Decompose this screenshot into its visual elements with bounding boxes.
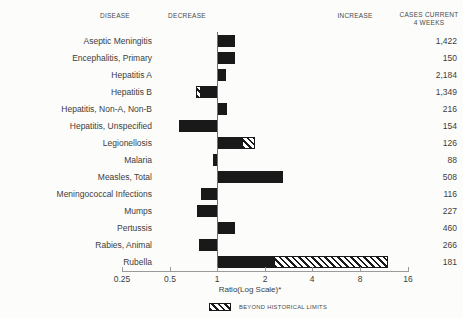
disease-label: Encephalitis, Primary (0, 50, 152, 67)
disease-label: Hepatitis, Non-A, Non-B (0, 101, 152, 118)
cases-value: 460 (413, 220, 457, 237)
cases-value: 181 (413, 254, 457, 271)
bar-beyond-historical-limits (274, 256, 388, 268)
disease-label: Meningococcal Infections (0, 186, 152, 203)
chart-row: Measles, Total508 (0, 169, 463, 186)
chart-row: Rabies, Animal266 (0, 237, 463, 254)
x-axis-tick-label: 2 (263, 274, 268, 284)
chart-row: Hepatitis, Unspecified154 (0, 118, 463, 135)
disease-label: Rabies, Animal (0, 237, 152, 254)
chart-row: Encephalitis, Primary150 (0, 50, 463, 67)
x-axis-tick (170, 267, 171, 272)
bar-increase (217, 52, 235, 64)
x-axis-tick (360, 267, 361, 272)
cases-value: 227 (413, 203, 457, 220)
disease-label: Measles, Total (0, 169, 152, 186)
cases-value: 126 (413, 135, 457, 152)
disease-label: Hepatitis A (0, 67, 152, 84)
bar-increase (217, 171, 283, 183)
column-header-cases-current: CASES CURRENT 4 WEEKS (400, 11, 459, 27)
disease-label: Hepatitis, Unspecified (0, 118, 152, 135)
disease-label: Rubella (0, 254, 152, 271)
bar-increase (217, 35, 235, 47)
bar-decrease (199, 239, 217, 251)
bar-decrease (179, 120, 218, 132)
x-axis-tick-label: 16 (403, 274, 412, 284)
bar-decrease (201, 86, 217, 98)
bar-decrease (197, 205, 218, 217)
mmwr-notifiable-diseases-chart: DISEASE DECREASE INCREASE CASES CURRENT … (0, 0, 463, 318)
x-axis-tick (217, 267, 218, 272)
disease-label: Hepatitis B (0, 84, 152, 101)
bar-decrease (201, 188, 217, 200)
disease-label: Mumps (0, 203, 152, 220)
x-axis-tick-label: 0.5 (164, 274, 176, 284)
chart-row: Rubella181 (0, 254, 463, 271)
chart-row: Meningococcal Infections116 (0, 186, 463, 203)
bar-increase (217, 222, 235, 234)
legend-label: BEYOND HISTORICAL LIMITS (239, 304, 327, 310)
chart-row: Mumps227 (0, 203, 463, 220)
cases-value: 116 (413, 186, 457, 203)
cases-value: 216 (413, 101, 457, 118)
x-axis-tick (312, 267, 313, 272)
beyond-historical-limits-hatch-swatch (209, 303, 231, 311)
disease-label: Malaria (0, 152, 152, 169)
baseline-ratio-1 (217, 32, 218, 271)
bar-increase (217, 69, 225, 81)
chart-row: Malaria88 (0, 152, 463, 169)
cases-value: 154 (413, 118, 457, 135)
x-axis-title: Ratio(Log Scale)* (219, 285, 282, 294)
disease-label: Aseptic Meningitis (0, 33, 152, 50)
bar-beyond-historical-limits (242, 137, 255, 149)
cases-value: 88 (413, 152, 457, 169)
cases-value: 1,422 (413, 33, 457, 50)
chart-row: Legionellosis126 (0, 135, 463, 152)
chart-row: Pertussis460 (0, 220, 463, 237)
cases-value: 1,349 (413, 84, 457, 101)
x-axis-tick-label: 0.25 (114, 274, 131, 284)
cases-value: 508 (413, 169, 457, 186)
chart-row: Aseptic Meningitis1,422 (0, 33, 463, 50)
cases-value: 266 (413, 237, 457, 254)
bar-increase (217, 137, 242, 149)
x-axis-tick (408, 267, 409, 272)
cases-header-line1: CASES CURRENT (400, 11, 459, 19)
column-header-increase: INCREASE (337, 12, 372, 20)
cases-value: 2,184 (413, 67, 457, 84)
x-axis-tick-label: 4 (310, 274, 315, 284)
bar-beyond-historical-limits (196, 86, 201, 98)
disease-label: Legionellosis (0, 135, 152, 152)
column-header-decrease: DECREASE (168, 12, 206, 20)
chart-row: Hepatitis A2,184 (0, 67, 463, 84)
chart-row: Hepatitis B1,349 (0, 84, 463, 101)
legend: BEYOND HISTORICAL LIMITS (209, 303, 327, 311)
x-axis-tick-label: 1 (215, 274, 220, 284)
disease-label: Pertussis (0, 220, 152, 237)
cases-value: 150 (413, 50, 457, 67)
column-header-disease: DISEASE (100, 12, 130, 20)
bar-increase (217, 103, 227, 115)
cases-header-line2: 4 WEEKS (400, 19, 459, 27)
x-axis-tick (265, 267, 266, 272)
x-axis-tick-label: 8 (358, 274, 363, 284)
x-axis-tick (122, 267, 123, 272)
chart-row: Hepatitis, Non-A, Non-B216 (0, 101, 463, 118)
